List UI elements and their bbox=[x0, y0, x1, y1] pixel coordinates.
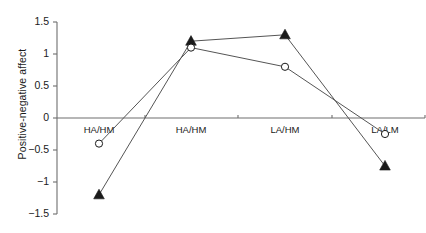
series-group bbox=[94, 29, 391, 199]
plot-area bbox=[0, 0, 426, 233]
chart-container: Positive-negative affect 1.510.50−0.5−1−… bbox=[0, 0, 426, 233]
data-point-circle bbox=[187, 44, 194, 51]
series-line-triangle-filled bbox=[99, 35, 385, 195]
data-point-circle bbox=[95, 140, 102, 147]
data-point-triangle bbox=[94, 189, 105, 199]
data-point-circle bbox=[281, 63, 288, 70]
series-line-circle-open bbox=[99, 48, 385, 144]
data-point-circle bbox=[381, 130, 388, 137]
data-point-triangle bbox=[280, 29, 291, 39]
axes-group bbox=[53, 22, 425, 214]
